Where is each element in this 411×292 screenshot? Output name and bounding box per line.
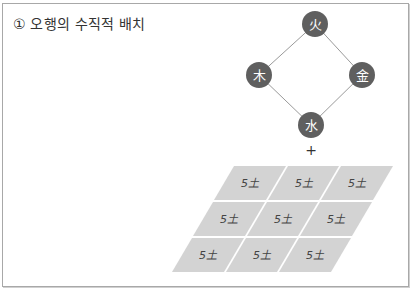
edges (259, 24, 362, 125)
node-fire-label: 火 (309, 17, 322, 32)
node-wood-label: 木 (253, 68, 266, 83)
node-wood: 木 (246, 62, 272, 88)
node-fire: 火 (302, 11, 328, 37)
five-elements-diagram: 火 木 金 水 + 5土 5土 5土 5土 5土 5土 5土 5土 5 (0, 0, 411, 292)
node-metal: 金 (349, 62, 375, 88)
earth-grid: 5土 5土 5土 5土 5土 5土 5土 5土 5土 (172, 166, 393, 272)
node-metal-label: 金 (356, 68, 369, 83)
grid-cell-label: 5土 (295, 177, 314, 190)
grid-cell-label: 5土 (199, 249, 218, 262)
grid-cell-label: 5土 (274, 213, 293, 226)
node-water: 水 (298, 112, 324, 138)
node-water-label: 水 (305, 118, 318, 133)
grid-cell-label: 5土 (348, 177, 367, 190)
grid-cell-label: 5土 (306, 249, 325, 262)
grid-cell-label: 5土 (220, 213, 239, 226)
grid-cell-label: 5土 (253, 249, 272, 262)
grid-cell-label: 5土 (327, 213, 346, 226)
plus-sign: + (305, 142, 317, 158)
grid-cell-label: 5土 (241, 177, 260, 190)
